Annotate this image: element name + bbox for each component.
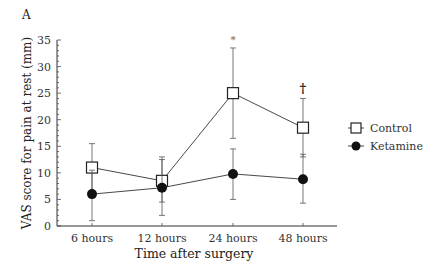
line-chart: 051015202530356 hours12 hours24 hours48 … <box>0 0 441 275</box>
y-axis-label: VAS score for pain at rest (mm) <box>20 37 34 230</box>
data-point <box>228 169 238 179</box>
y-tick-label: 30 <box>37 61 51 74</box>
y-tick-label: 35 <box>37 34 51 47</box>
svg-text:Ketamine: Ketamine <box>370 140 423 153</box>
x-tick-label: 24 hours <box>208 232 258 245</box>
legend-item-control: Control <box>348 122 412 135</box>
y-tick-label: 0 <box>44 220 51 233</box>
x-tick-label: 6 hours <box>71 232 114 245</box>
series-ketamine <box>87 149 308 221</box>
svg-text:Control: Control <box>370 122 412 135</box>
data-point <box>298 122 309 133</box>
y-tick-label: 10 <box>37 167 51 180</box>
y-tick-label: 25 <box>37 87 51 100</box>
significance-marker: † <box>300 81 307 96</box>
data-point <box>298 174 308 184</box>
legend-item-ketamine: Ketamine <box>348 140 423 153</box>
y-tick-label: 20 <box>37 114 51 127</box>
x-tick-label: 12 hours <box>137 232 187 245</box>
data-point <box>87 189 97 199</box>
x-tick-label: 48 hours <box>278 232 328 245</box>
data-point <box>157 183 167 193</box>
data-point <box>228 88 239 99</box>
x-axis-label: Time after surgery <box>135 246 255 261</box>
y-tick-label: 15 <box>37 140 51 153</box>
series-control <box>87 48 309 202</box>
y-tick-label: 5 <box>44 193 51 206</box>
significance-marker: * <box>230 34 236 45</box>
